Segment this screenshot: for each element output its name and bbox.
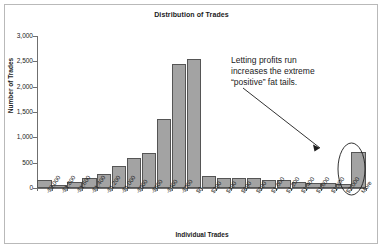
chart-screenshot: Distribution of Trades Number of Trades … xyxy=(0,0,383,249)
annotation-callout xyxy=(0,0,383,249)
annotation-arrow-line xyxy=(243,88,320,148)
ellipse-highlight-icon xyxy=(338,143,365,195)
